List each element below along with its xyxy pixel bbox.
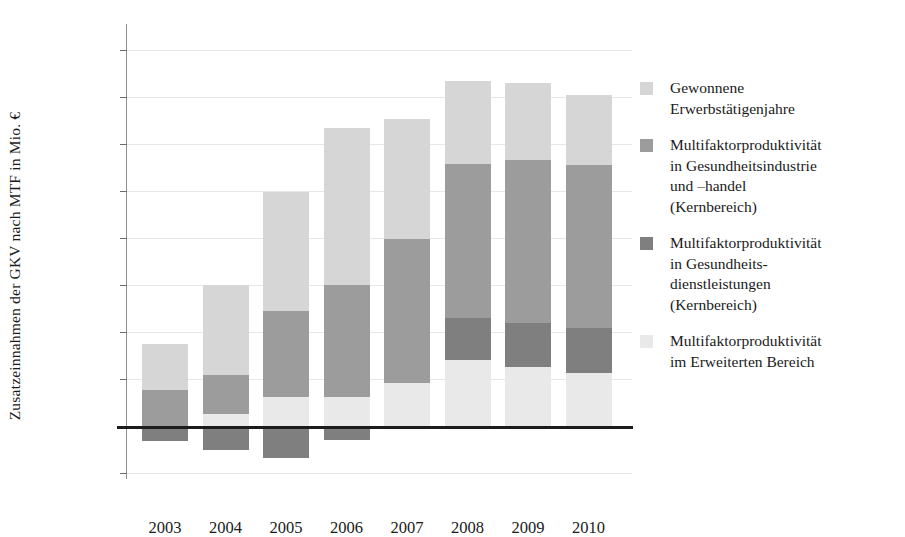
bar-segment [203,414,249,426]
bar-segment [384,119,430,239]
y-axis-tick [120,50,127,51]
bar-segment [445,164,491,318]
legend-label-line: in Gesundheits- [670,254,902,275]
legend-item[interactable]: Multifaktorproduktivitätin Gesundheitsin… [640,135,902,217]
legend-swatch-services [640,237,653,250]
y-axis-tick [120,332,127,333]
y-axis-tick [120,473,127,474]
bar-group[interactable] [566,24,612,479]
legend-label-line: Multifaktorproduktivität [670,135,902,156]
y-axis-tick [120,285,127,286]
legend-label: Multifaktorproduktivitätim Erweiterten B… [670,331,902,372]
bar-segment [324,285,370,397]
y-axis-tick [120,379,127,380]
legend-label-line: Multifaktorproduktivität [670,233,902,254]
bar-group[interactable] [263,24,309,479]
y-axis-tick [120,97,127,98]
legend-label-line: Erwerbstätigenjahre [670,99,902,120]
bar-segment [566,328,612,373]
legend-label-line: (Kernbereich) [670,197,902,218]
legend-label-line: Gewonnene [670,78,902,99]
legend-label: Multifaktorproduktivitätin Gesundheits-d… [670,233,902,315]
legend-label-line: und –handel [670,176,902,197]
legend-item[interactable]: Multifaktorproduktivitätin Gesundheits-d… [640,233,902,315]
legend-item[interactable]: Multifaktorproduktivitätim Erweiterten B… [640,331,902,372]
bar-group[interactable] [505,24,551,479]
bar-segment [142,390,188,426]
bar-segment [263,426,309,458]
bar-segment [445,318,491,360]
bar-segment [505,83,551,161]
bar-segment [566,165,612,328]
bar-group[interactable] [142,24,188,479]
bar-segment [505,323,551,368]
y-axis-tick [120,191,127,192]
legend-swatch-gained [640,82,653,95]
bar-segment [445,81,491,164]
bar-segment [505,367,551,426]
legend-label-line: Multifaktorproduktivität [670,331,902,352]
bar-group[interactable] [324,24,370,479]
chart-legend: GewonneneErwerbstätigenjahre Multifaktor… [640,78,902,388]
legend-label: Multifaktorproduktivitätin Gesundheitsin… [670,135,902,217]
bar-group[interactable] [384,24,430,479]
bar-segment [142,344,188,390]
y-axis-line [126,24,127,479]
legend-swatch-extended [640,335,653,348]
bar-segment [263,192,309,311]
bar-segment [566,373,612,426]
bar-group[interactable] [445,24,491,479]
bar-segment [203,285,249,375]
bar-segment [203,426,249,450]
y-axis-tick [120,144,127,145]
bar-segment [566,95,612,166]
y-axis-title: Zusatzeinnahmen der GKV nach MTF in Mio.… [2,0,28,532]
bar-segment [324,397,370,426]
bar-segment [203,375,249,414]
bar-segment [505,160,551,322]
legend-label-line: im Erweiterten Bereich [670,352,902,373]
bar-segment [384,239,430,382]
bar-segment [324,128,370,285]
y-axis-tick [120,238,127,239]
legend-swatch-industry [640,139,653,152]
bar-segment [384,383,430,426]
legend-label-line: dienstleistungen [670,274,902,295]
bar-segment [263,397,309,426]
legend-item[interactable]: GewonneneErwerbstätigenjahre [640,78,902,119]
zero-baseline [117,426,633,429]
plot-area: 1.6001.4001.2001.0008006004002000-200 20… [126,24,632,479]
legend-label: GewonneneErwerbstätigenjahre [670,78,902,119]
bar-segment [263,311,309,397]
x-axis-label: 2010 [549,518,629,537]
bar-group[interactable] [203,24,249,479]
bar-segment [445,360,491,426]
legend-label-line: in Gesundheitsindustrie [670,156,902,177]
legend-label-line: (Kernbereich) [670,295,902,316]
